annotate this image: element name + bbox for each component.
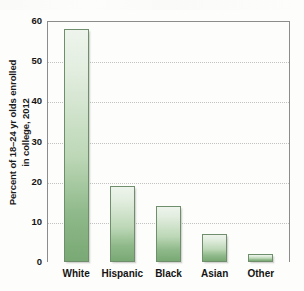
plot-area (47, 21, 290, 262)
bar-black (156, 206, 181, 262)
bar-asian (202, 234, 227, 262)
y-tick-label: 20 (20, 176, 42, 187)
bar-other (248, 254, 273, 262)
y-tick-label: 40 (20, 95, 42, 106)
x-tick-label: Black (145, 268, 191, 279)
y-axis-title-line1: Percent of 18–24 yr olds enrolled (8, 60, 19, 206)
y-tick-label: 50 (20, 55, 42, 66)
bar-chart-figure: Percent of 18–24 yr olds enrolled in col… (0, 0, 304, 291)
bar-series (48, 21, 289, 262)
x-axis-tick-labels: WhiteHispanicBlackAsianOther (47, 268, 290, 279)
x-tick-label: Other (238, 268, 284, 279)
scan-artifact (0, 0, 304, 10)
x-tick-label: White (53, 268, 99, 279)
y-tick-label: 0 (20, 256, 42, 267)
bar-hispanic (110, 186, 135, 262)
x-tick-label: Hispanic (99, 268, 145, 279)
y-tick-label: 30 (20, 136, 42, 147)
bar-white (64, 29, 89, 262)
x-tick-label: Asian (192, 268, 238, 279)
y-tick-label: 10 (20, 216, 42, 227)
y-tick-label: 60 (20, 15, 42, 26)
